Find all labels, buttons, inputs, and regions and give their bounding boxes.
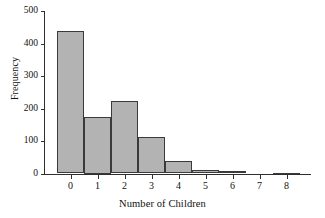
y-tick-label: 200 <box>8 104 38 114</box>
x-tick-label: 1 <box>88 180 108 191</box>
x-tick-mark <box>233 175 234 179</box>
x-tick-mark <box>260 175 261 179</box>
x-tick-mark <box>206 175 207 179</box>
histogram-bar <box>111 101 138 173</box>
histogram-bar <box>84 117 111 174</box>
y-tick-label: 300 <box>8 71 38 81</box>
x-tick-mark <box>287 175 288 179</box>
y-tick-label: 100 <box>8 136 38 146</box>
histogram-bar <box>138 137 165 173</box>
histogram-bar <box>165 161 192 173</box>
x-tick-mark <box>98 175 99 179</box>
y-tick-label: 400 <box>8 39 38 49</box>
x-tick-label: 4 <box>169 180 189 191</box>
x-tick-mark <box>71 175 72 179</box>
x-tick-mark <box>179 175 180 179</box>
y-tick-label: 0 <box>8 169 38 179</box>
x-tick-mark <box>125 175 126 179</box>
x-tick-label: 7 <box>250 180 270 191</box>
x-tick-label: 5 <box>196 180 216 191</box>
x-tick-label: 2 <box>115 180 135 191</box>
x-tick-label: 8 <box>277 180 297 191</box>
x-tick-label: 0 <box>61 180 81 191</box>
x-tick-label: 3 <box>142 180 162 191</box>
y-tick-label: 500 <box>8 6 38 16</box>
x-tick-mark <box>152 175 153 179</box>
x-tick-label: 6 <box>223 180 243 191</box>
histogram-chart: Frequency 0100200300400500 012345678 Num… <box>0 0 325 218</box>
x-axis-line <box>44 174 311 175</box>
x-axis-label: Number of Children <box>0 198 325 209</box>
y-axis-line <box>44 11 45 174</box>
histogram-bar <box>57 31 84 173</box>
